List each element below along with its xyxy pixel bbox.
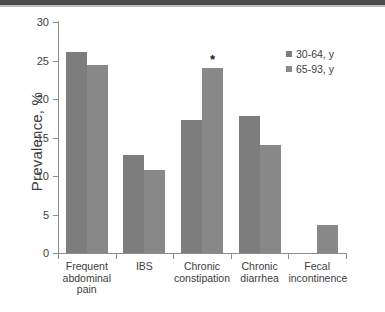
y-axis-tick-label: 30: [22, 17, 49, 28]
legend-item: 30-64, y: [286, 47, 334, 61]
significance-asterisk: *: [205, 53, 221, 66]
legend-item-label: 30-64, y: [296, 48, 334, 60]
x-axis-tick-mark: [173, 254, 174, 259]
legend-item: 65-93, y: [286, 62, 334, 76]
bar: [260, 145, 281, 253]
x-axis-tick-mark: [288, 254, 289, 259]
x-axis-line: [58, 253, 347, 254]
bar: [87, 65, 108, 253]
chart-legend: 30-64, y65-93, y: [286, 47, 334, 77]
x-axis-category-label: Chronicdiarrhea: [231, 261, 289, 284]
x-axis-category-label: IBS: [116, 261, 174, 273]
bar: [123, 155, 144, 253]
bar: [181, 120, 202, 253]
x-axis-tick-mark: [58, 254, 59, 259]
bar: [66, 52, 87, 253]
y-axis-tick-label: 10: [22, 171, 49, 182]
y-axis-tick-label: 20: [22, 94, 49, 105]
x-axis-category-label: Frequentabdominalpain: [58, 261, 116, 296]
x-axis-tick-mark: [346, 254, 347, 259]
bar-chart-figure: Prevalence, % 051015202530 * Frequentabd…: [0, 0, 385, 312]
legend-swatch-icon: [286, 66, 292, 72]
x-axis-category-label: Fecalincontinence: [288, 261, 346, 284]
x-axis-tick-mark: [116, 254, 117, 259]
y-axis-tick-label: 15: [22, 133, 49, 144]
x-axis-tick-mark: [231, 254, 232, 259]
y-axis-tick-label: 25: [22, 56, 49, 67]
bar: [317, 225, 338, 253]
legend-item-label: 65-93, y: [296, 63, 334, 75]
bar: [202, 68, 223, 253]
legend-swatch-icon: [286, 51, 292, 57]
x-axis-category-label: Chronicconstipation: [173, 261, 231, 284]
bar: [144, 170, 165, 253]
y-axis-tick-label: 5: [22, 210, 49, 221]
bar: [239, 116, 260, 253]
y-axis-tick-label: 0: [22, 248, 49, 259]
